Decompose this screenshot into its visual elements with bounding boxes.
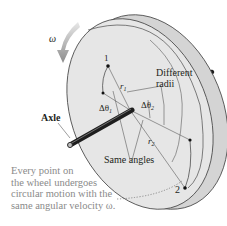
point-1 bbox=[106, 64, 110, 68]
different-radii-line2: radii bbox=[156, 78, 192, 89]
dtheta2-label: Δθ2 bbox=[141, 101, 154, 111]
caption-line-2: the wheel undergoes bbox=[11, 177, 115, 189]
omega-label: ω bbox=[49, 34, 56, 44]
r2-label: r2 bbox=[148, 137, 155, 147]
same-angles-label: Same angles bbox=[104, 155, 154, 165]
dtheta2-subscript: 2 bbox=[151, 105, 154, 111]
caption-line-4: same angular velocity ω. bbox=[11, 200, 115, 212]
caption-line-3: circular motion with the bbox=[11, 188, 115, 200]
caption: Every point on the wheel undergoes circu… bbox=[11, 165, 115, 211]
r1-subscript: 1 bbox=[124, 86, 127, 92]
dtheta2-symbol: Δθ bbox=[141, 100, 151, 110]
r2-subscript: 2 bbox=[152, 141, 155, 147]
wheel-diagram: ω 1 2 r1 r2 Δθ1 Δθ2 Different radii Axle… bbox=[0, 0, 227, 226]
point-1-label: 1 bbox=[104, 54, 109, 63]
point-2-start bbox=[188, 138, 191, 141]
point-1-moved bbox=[102, 92, 105, 95]
dtheta1-subscript: 1 bbox=[109, 108, 112, 114]
caption-line-1: Every point on bbox=[11, 165, 115, 177]
point-2 bbox=[183, 186, 187, 190]
dtheta1-label: Δθ1 bbox=[99, 104, 112, 114]
dtheta1-symbol: Δθ bbox=[99, 103, 109, 113]
different-radii-label: Different radii bbox=[156, 67, 192, 89]
r1-label: r1 bbox=[120, 82, 127, 92]
different-radii-line1: Different bbox=[156, 67, 192, 78]
axle-label: Axle bbox=[41, 113, 60, 123]
point-2-label: 2 bbox=[175, 185, 180, 195]
